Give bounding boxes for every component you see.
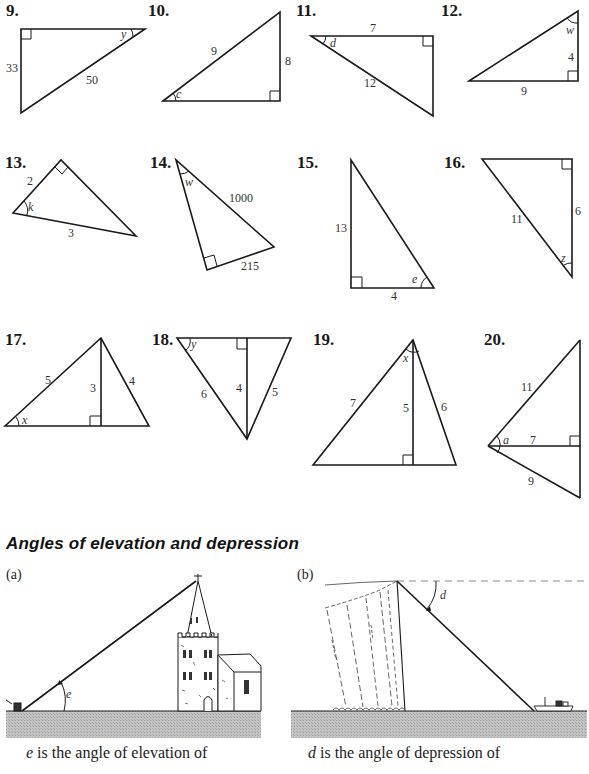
side-length-label: 215	[241, 259, 259, 273]
problem-number: 12.	[441, 1, 462, 20]
side-length-label: 7	[530, 433, 536, 447]
angle-label: k	[28, 200, 34, 214]
side-length-label: 4	[391, 289, 397, 303]
angle-label: a	[503, 433, 509, 447]
side-length-label: 8	[285, 54, 291, 68]
triangle-20	[488, 340, 580, 498]
caption-a: e is the angle of elevation of	[26, 744, 207, 762]
problem-number: 13.	[5, 153, 26, 172]
problem-number: 9.	[6, 1, 19, 20]
side-length-label: 6	[575, 204, 581, 218]
angle-label: y	[120, 27, 127, 41]
angle-label: z	[560, 251, 566, 265]
side-length-label: 12	[364, 76, 376, 90]
side-length-label: 11	[511, 212, 523, 226]
section-heading: Angles of elevation and depression	[6, 534, 299, 554]
problem-number: 18.	[152, 330, 173, 349]
side-labels: 3350y98c712dw492k3w1000215134e116z534xy6…	[6, 21, 581, 488]
side-length-label: 4	[236, 381, 242, 395]
side-length-label: 3	[90, 381, 96, 395]
side-length-label: 11	[521, 380, 533, 394]
boat-icon	[534, 697, 573, 711]
elevation-diagram: e	[6, 574, 261, 738]
triangle-9	[21, 29, 145, 113]
side-length-label: 13	[335, 221, 347, 235]
angle-e-label: e	[66, 687, 72, 701]
side-length-label: 5	[272, 385, 278, 399]
triangle-16	[482, 159, 572, 277]
cliff-illustration	[325, 581, 405, 711]
sight-line-b	[397, 581, 534, 711]
angle-label: w	[566, 23, 574, 37]
sight-line-a	[22, 581, 196, 711]
problem-number: 14.	[150, 153, 171, 172]
caption-a-text: is the angle of elevation of	[33, 744, 207, 761]
problem-numbers: 9.10.11.12.13.14.15.16.17.18.19.20.	[5, 1, 505, 349]
problem-number: 10.	[148, 1, 169, 20]
church-illustration	[178, 574, 261, 711]
angle-label: c	[176, 87, 182, 101]
ground-strip-a	[6, 711, 261, 738]
problem-number: 11.	[296, 1, 316, 20]
side-length-label: 5	[45, 373, 51, 387]
worksheet-canvas: 9.10.11.12.13.14.15.16.17.18.19.20.	[0, 0, 589, 774]
angle-label: x	[402, 351, 409, 365]
angle-label: d	[330, 36, 337, 50]
caption-b-text: is the angle of depression of	[316, 744, 500, 761]
problem-number: 20.	[484, 330, 505, 349]
part-a-label: (a)	[6, 567, 22, 583]
problem-number: 17.	[5, 330, 26, 349]
observer-icon	[6, 700, 21, 711]
side-length-label: 1000	[229, 191, 253, 205]
side-length-label: 33	[6, 61, 18, 75]
side-length-label: 50	[86, 73, 98, 87]
angle-d-label: d	[440, 588, 447, 602]
side-length-label: 9	[521, 84, 527, 98]
triangle-13	[13, 160, 136, 236]
side-length-label: 3	[68, 226, 74, 240]
triangle-19	[313, 340, 456, 465]
side-length-label: 4	[568, 50, 574, 64]
problem-number: 16.	[444, 153, 465, 172]
side-length-label: 5	[403, 401, 409, 415]
side-length-label: 9	[211, 44, 217, 58]
depression-diagram: d	[291, 581, 587, 738]
side-length-label: 7	[370, 21, 376, 35]
angle-label: e	[412, 272, 418, 286]
side-length-label: 7	[350, 396, 356, 410]
problem-number: 19.	[313, 330, 334, 349]
side-length-label: 6	[201, 387, 207, 401]
angle-label: w	[185, 175, 193, 189]
side-length-label: 9	[528, 474, 534, 488]
part-b-label: (b)	[297, 567, 313, 583]
caption-b-var: d	[308, 744, 316, 761]
side-length-label: 6	[441, 400, 447, 414]
triangle-15	[351, 160, 434, 288]
angle-label: y	[190, 337, 197, 351]
ground-strip-b	[291, 711, 587, 738]
side-length-label: 2	[27, 174, 33, 188]
problem-number: 15.	[297, 153, 318, 172]
side-length-label: 4	[129, 374, 135, 388]
angle-label: x	[21, 413, 28, 427]
triangle-12	[469, 11, 578, 81]
caption-b: d is the angle of depression of	[308, 744, 500, 762]
